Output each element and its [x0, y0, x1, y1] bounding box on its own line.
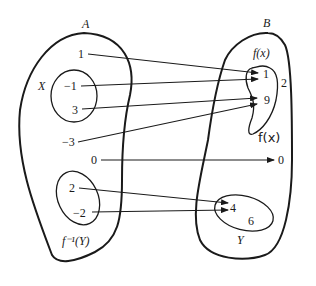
codomain-element: 2: [281, 76, 287, 90]
codomain-element: 6: [248, 214, 254, 228]
set-fx-label: f(x): [253, 46, 270, 60]
set-b-label: B: [263, 16, 271, 30]
set-y-boundary: [211, 189, 278, 237]
domain-element: 0: [91, 153, 97, 167]
codomain-element: 4: [230, 201, 236, 215]
domain-element: 2: [69, 181, 75, 195]
domain-element: 1: [78, 47, 84, 61]
domain-element: −3: [62, 135, 75, 149]
function-diagram: A B X f(x) Y f⁻¹(Y) f(x) 1 −1 3 −3 0 2 −…: [0, 0, 316, 286]
codomain-element: 1: [263, 67, 269, 81]
mapping-arrow: [78, 104, 257, 142]
set-x-label: X: [37, 79, 46, 93]
set-fx-boundary: [246, 66, 277, 134]
set-b-boundary: [196, 33, 292, 259]
mapping-arrow: [92, 210, 228, 212]
codomain-element: 9: [264, 93, 270, 107]
domain-element: 3: [72, 103, 78, 117]
mapping-arrow: [88, 54, 258, 73]
set-a-label: A: [81, 17, 90, 31]
mapping-arrow: [79, 188, 228, 203]
domain-element: −2: [73, 206, 86, 220]
set-finv-y-boundary: [48, 164, 108, 232]
set-a-boundary: [19, 33, 131, 261]
mapping-arrow: [82, 98, 257, 109]
set-finv-y-label: f⁻¹(Y): [62, 234, 90, 248]
handwritten-fx-annotation: f(x): [258, 130, 280, 145]
codomain-element: 0: [278, 153, 284, 167]
set-y-label: Y: [237, 233, 245, 247]
mapping-arrow: [81, 79, 258, 86]
domain-element: −1: [64, 79, 77, 93]
